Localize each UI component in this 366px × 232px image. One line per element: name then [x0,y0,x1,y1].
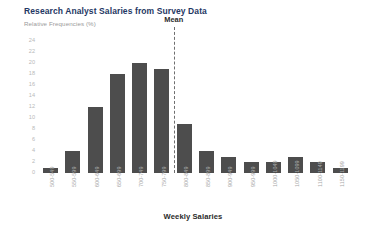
x-axis-tick: 1100-1149 [317,176,323,187]
x-axis-tick: 1000-1049 [272,176,278,187]
y-axis-tick: 18 [13,71,35,77]
x-axis-label: Weekly Salaries [0,212,366,221]
bar-series [40,41,352,173]
y-axis-tick: 20 [13,60,35,66]
plot-area: 242220181614121086420 500-549550-599600-… [40,41,352,173]
y-axis-tick: 24 [13,38,35,44]
y-axis-tick: 12 [13,104,35,110]
y-axis-tick: 0 [13,170,35,176]
y-axis-tick: 8 [13,126,35,132]
bar-slot [85,41,107,173]
bar-slot [307,41,329,173]
x-axis-tick: 500-549 [49,176,55,187]
bar-slot [107,41,129,173]
bar [154,69,169,174]
x-axis-label-text: Weekly Salaries [164,212,223,221]
mean-label: Mean [164,15,183,24]
x-axis-tick: 1150-1199 [339,176,345,187]
bar-slot [218,41,240,173]
mean-line [174,27,175,173]
x-axis-tick: 600-649 [94,176,100,187]
y-axis-tick: 10 [13,115,35,121]
bar-slot [40,41,62,173]
x-axis-tick: 650-699 [116,176,122,187]
y-axis-tick: 2 [13,159,35,165]
bar-slot [285,41,307,173]
y-axis-tick: 4 [13,148,35,154]
x-axis-tick: 950-999 [250,176,256,187]
bar-slot [330,41,352,173]
x-axis-tick: 700-749 [138,176,144,187]
bar-slot [263,41,285,173]
bar-slot [196,41,218,173]
y-axis-tick: 22 [13,49,35,55]
x-axis-tick: 900-949 [227,176,233,187]
x-axis-tick: 550-599 [71,176,77,187]
x-axis-tick: 1050-1099 [294,176,300,187]
bar-chart: Research Analyst Salaries from Survey Da… [0,0,366,232]
x-axis-tick: 850-899 [205,176,211,187]
y-axis-tick: 6 [13,137,35,143]
bar-slot [62,41,84,173]
y-axis-label: Relative Frequencies (%) [24,20,96,27]
y-axis-tick: 16 [13,82,35,88]
x-axis-tick: 750-799 [161,176,167,187]
bar [110,74,125,173]
bar-slot [174,41,196,173]
bar-slot [241,41,263,173]
bar-slot [151,41,173,173]
bar-slot [129,41,151,173]
bar [88,107,103,173]
x-axis-tick: 800-849 [183,176,189,187]
bar [132,63,147,173]
bar [177,124,192,174]
y-axis-tick: 14 [13,93,35,99]
